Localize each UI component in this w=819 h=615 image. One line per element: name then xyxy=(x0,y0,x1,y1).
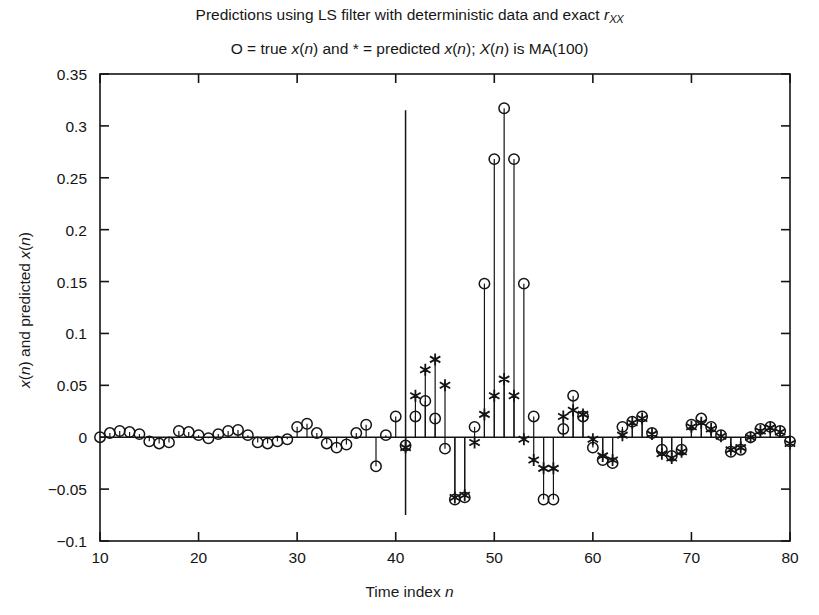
predicted-value-marker xyxy=(667,452,677,464)
ylabel-n2: n xyxy=(16,237,33,246)
predicted-value-marker xyxy=(676,446,686,458)
predicted-value-marker xyxy=(706,423,716,435)
predicted-value-marker xyxy=(489,390,499,402)
y-tick-label: 0.3 xyxy=(65,118,87,135)
predicted-value-marker xyxy=(637,413,647,425)
predicted-value-marker xyxy=(469,436,479,448)
x-axis-ticks: 1020304050607080 xyxy=(91,74,799,566)
y-tick-label: 0.2 xyxy=(65,222,87,239)
predicted-value-marker xyxy=(736,442,746,454)
x-tick-label: 50 xyxy=(486,549,504,566)
predicted-value-marker xyxy=(460,489,470,501)
ylabel-p3: ( xyxy=(16,246,33,251)
y-tick-label: 0.35 xyxy=(57,66,87,83)
predicted-value-marker xyxy=(578,408,588,420)
xlabel-text: Time index xyxy=(365,583,445,600)
ylabel-n1: n xyxy=(16,366,33,375)
x-tick-label: 10 xyxy=(91,549,109,566)
predicted-value-marker xyxy=(420,364,430,376)
y-tick-label: −0.05 xyxy=(48,481,87,498)
predicted-value-marker xyxy=(499,373,509,385)
predicted-value-marker xyxy=(400,442,410,454)
y-tick-label: 0 xyxy=(78,429,87,446)
predicted-value-marker xyxy=(519,433,529,445)
x-tick-label: 30 xyxy=(289,549,307,566)
x-axis-label: Time index n xyxy=(0,583,819,601)
predicted-value-marker xyxy=(686,421,696,433)
predicted-value-marker xyxy=(529,454,539,466)
predicted-value-marker xyxy=(548,462,558,474)
x-tick-label: 40 xyxy=(387,549,405,566)
predicted-value-marker xyxy=(538,462,548,474)
ylabel-p4: ) xyxy=(16,232,33,237)
plot-frame-box xyxy=(100,74,790,541)
x-tick-label: 20 xyxy=(190,549,208,566)
predicted-value-marker xyxy=(755,425,765,437)
x-tick-label: 80 xyxy=(781,549,799,566)
predicted-value-marker xyxy=(509,390,519,402)
y-axis-label: x(n) and predicted x(n) xyxy=(16,200,34,420)
ylabel-p1: ( xyxy=(16,375,33,380)
predicted-value-marker xyxy=(558,410,568,422)
chart-figure: Predictions using LS filter with determi… xyxy=(0,0,819,615)
y-tick-label: 0.15 xyxy=(57,274,87,291)
predicted-value-marker xyxy=(726,444,736,456)
y-tick-label: 0.25 xyxy=(57,170,87,187)
y-tick-label: 0.05 xyxy=(57,377,87,394)
predicted-value-marker xyxy=(430,353,440,365)
ylabel-x1: x xyxy=(16,380,33,388)
ylabel-p2: ) and predicted xyxy=(16,259,33,367)
predicted-value-markers xyxy=(400,353,795,503)
predicted-value-marker xyxy=(450,491,460,503)
x-tick-label: 60 xyxy=(584,549,602,566)
predicted-value-marker xyxy=(410,390,420,402)
ylabel-x2: x xyxy=(16,251,33,259)
predicted-value-marker xyxy=(440,379,450,391)
x-tick-label: 70 xyxy=(683,549,701,566)
predicted-value-marker xyxy=(568,404,578,416)
predicted-value-marker xyxy=(479,408,489,420)
plot-area: −0.1−0.0500.050.10.150.20.250.30.35 1020… xyxy=(0,0,819,615)
y-tick-label: −0.1 xyxy=(56,533,87,550)
y-tick-label: 0.1 xyxy=(65,325,87,342)
y-axis-ticks: −0.1−0.0500.050.10.150.20.250.30.35 xyxy=(48,66,790,550)
xlabel-ital: n xyxy=(445,583,454,600)
